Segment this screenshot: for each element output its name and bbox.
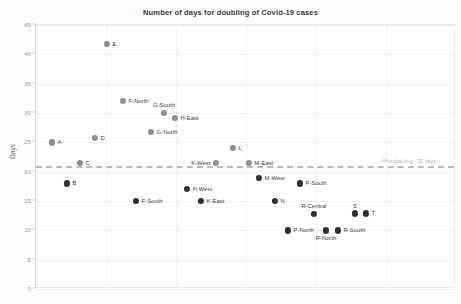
data-point-t[interactable] [363,210,369,216]
gridline-horizontal [36,289,454,290]
data-point-label-f-north: F-North [129,98,149,104]
y-axis-line [35,24,36,288]
data-point-label-c: C [86,160,90,166]
data-point-e[interactable] [104,41,110,47]
data-point-h-east[interactable] [172,115,178,121]
gridline-horizontal [36,260,454,261]
gridline-vertical [316,25,317,287]
gridline-vertical [176,25,177,287]
data-point-h-west[interactable] [184,186,190,192]
data-point-p-north[interactable] [285,227,291,233]
average-reference-line [36,166,454,168]
data-point-r-north[interactable] [323,227,329,233]
chart-title: Number of days for doubling of Covid-19 … [0,8,461,17]
data-point-label-g-north: G-North [157,129,178,135]
y-axis-title: Days [9,132,16,172]
data-point-p-south[interactable] [297,180,303,186]
scatter-chart: Number of days for doubling of Covid-19 … [0,0,461,304]
data-point-label-n: N [281,198,285,204]
gridline-horizontal [36,201,454,202]
data-point-label-d: D [101,135,105,141]
y-tick-label-0: 0 [6,285,31,292]
data-point-f-south[interactable] [133,198,139,204]
data-point-label-h-west: H-West [193,186,213,192]
data-point-label-b: B [73,180,77,186]
data-point-label-m-east: M-East [255,160,274,166]
data-point-label-r-south: R-South [344,227,366,233]
data-point-n[interactable] [272,198,278,204]
y-tick-label-45: 45 [6,21,31,28]
gridline-horizontal [36,113,454,114]
y-tick-label-35: 35 [6,79,31,86]
data-point-f-north[interactable] [120,98,126,104]
data-point-l[interactable] [230,145,236,151]
data-point-label-t: T [372,210,376,216]
data-point-label-h-east: H-East [181,115,199,121]
y-tick-label-30: 30 [6,109,31,116]
data-point-label-l: L [239,145,242,151]
y-tick-label-5: 5 [6,255,31,262]
y-tick-label-10: 10 [6,226,31,233]
data-point-label-k-west: K-West [191,160,210,166]
data-point-k-east[interactable] [198,198,204,204]
data-point-d[interactable] [92,135,98,141]
data-point-g-north[interactable] [148,129,154,135]
data-point-label-p-north: P-North [294,227,314,233]
data-point-label-r-central: R-Central [301,203,326,209]
average-reference-label: Mumbai Avg - 20 days [383,158,436,164]
data-point-label-e: E [113,41,117,47]
data-point-b[interactable] [64,180,70,186]
data-point-label-p-south: P-South [306,180,327,186]
gridline-vertical [246,25,247,287]
gridline-vertical [106,25,107,287]
gridline-horizontal [36,54,454,55]
data-point-s[interactable] [352,210,358,216]
data-point-g-south[interactable] [161,110,167,116]
data-point-r-south[interactable] [335,227,341,233]
data-point-a[interactable] [49,139,55,145]
data-point-label-g-south: G-South [153,102,175,108]
gridline-horizontal [36,25,454,26]
data-point-label-f-south: F-South [142,198,163,204]
gridline-horizontal [36,142,454,143]
data-point-label-s: S [353,203,357,209]
data-point-label-m-west: M-West [265,175,285,181]
gridline-horizontal [36,172,454,173]
data-point-label-k-east: K-East [207,198,225,204]
y-tick-label-15: 15 [6,197,31,204]
data-point-m-west[interactable] [256,174,262,180]
y-tick-label-40: 40 [6,50,31,57]
gridline-horizontal [36,230,454,231]
data-point-label-r-north: R-North [316,235,337,241]
gridline-horizontal [36,84,454,85]
gridline-vertical [386,25,387,287]
data-point-label-a: A [58,139,62,145]
plot-area: Mumbai Avg - 20 daysABCDEF-NorthF-SouthG… [35,24,455,288]
